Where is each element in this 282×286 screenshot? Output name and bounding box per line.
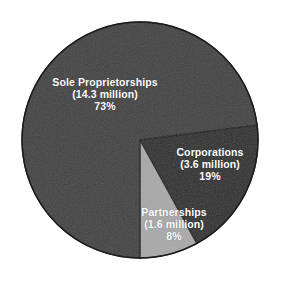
pie-label-sole-proprietorships: Sole Proprietorships (14.3 million) 73% xyxy=(30,76,180,113)
pie-label-sole-count: (14.3 million) xyxy=(30,88,180,100)
pie-chart: Sole Proprietorships (14.3 million) 73% … xyxy=(0,0,282,286)
pie-label-sole-percent: 73% xyxy=(30,100,180,112)
pie-label-sole-name: Sole Proprietorships xyxy=(30,76,180,88)
pie-label-corporations: Corporations (3.6 million) 19% xyxy=(152,146,268,183)
pie-label-partnerships-percent: 8% xyxy=(118,230,230,242)
pie-label-corporations-percent: 19% xyxy=(152,170,268,182)
pie-label-partnerships-name: Partnerships xyxy=(118,206,230,218)
pie-chart-graphic xyxy=(0,0,282,286)
pie-label-corporations-name: Corporations xyxy=(152,146,268,158)
pie-label-partnerships: Partnerships (1.6 million) 8% xyxy=(118,206,230,243)
pie-label-partnerships-count: (1.6 million) xyxy=(118,218,230,230)
pie-label-corporations-count: (3.6 million) xyxy=(152,158,268,170)
